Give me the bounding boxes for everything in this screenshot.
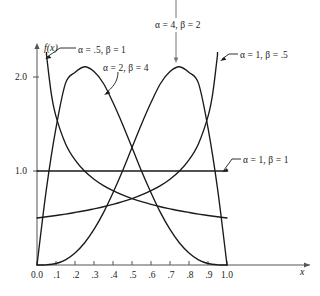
pointer-line-a1b1 — [224, 159, 241, 170]
curve-series-3 — [37, 67, 227, 265]
x-tick-label-10: 1.0 — [215, 270, 239, 280]
y-axis-arrowhead — [34, 43, 39, 49]
curve-layer — [37, 52, 227, 265]
pointer-arrowhead-a4b2 — [174, 58, 179, 63]
y-axis-title: f(x) — [44, 42, 58, 53]
pointer-arrowhead-a1b05 — [220, 57, 226, 61]
chart-figure: f(x) x 2.0 1.0 0.0 .1 .2 .3 .4 .5 .6 .7 … — [0, 0, 320, 296]
pointer-line-a2b4 — [106, 72, 118, 93]
curve-series-1 — [37, 67, 227, 265]
x-axis-title: x — [300, 266, 304, 277]
y-tick-label-1: 1.0 — [10, 166, 32, 176]
annotation-alpha1-beta1: α = 1, β = 1 — [243, 155, 288, 165]
annotation-alpha05-beta1: α = .5, β = 1 — [78, 45, 126, 55]
x-axis-arrowhead — [304, 262, 310, 267]
annotation-alpha2-beta4: α = 2, β = 4 — [103, 63, 148, 73]
annotation-alpha4-beta2: α = 4, β = 2 — [155, 20, 200, 30]
annotation-alpha1-beta05: α = 1, β = .5 — [240, 50, 288, 60]
y-tick-label-2: 2.0 — [10, 72, 32, 82]
